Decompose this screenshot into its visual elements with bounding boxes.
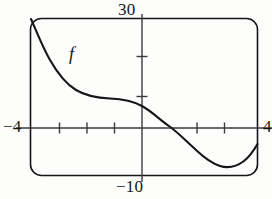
x-max-label: 4 [263, 118, 272, 135]
curve-name-label: f [69, 45, 74, 63]
y-min-label: −10 [116, 178, 143, 195]
graph-canvas [0, 0, 272, 199]
function-graph-figure: 30 −10 −4 4 f [0, 0, 272, 199]
x-min-label: −4 [3, 118, 22, 135]
y-max-label: 30 [118, 1, 135, 18]
function-curve-f [31, 19, 258, 167]
